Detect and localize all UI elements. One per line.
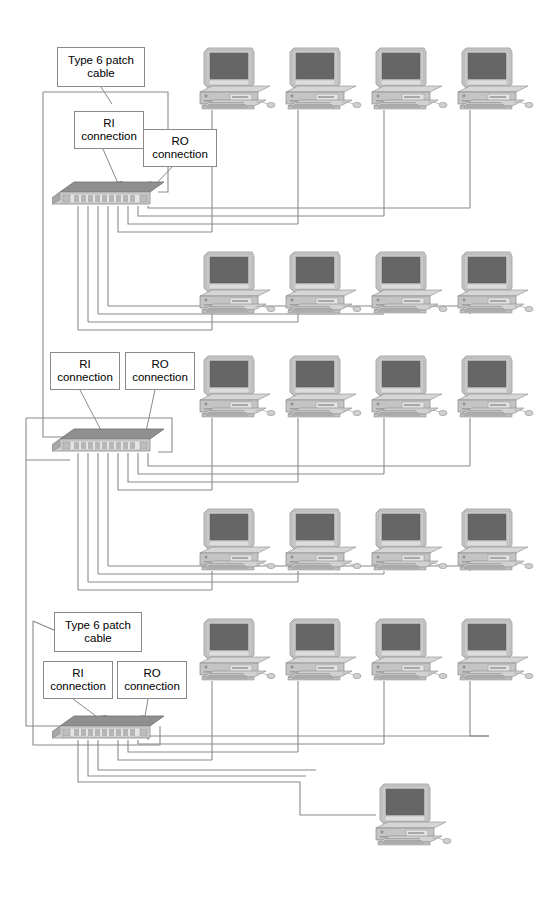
computer-workstation[interactable] xyxy=(282,352,366,420)
computer-workstation[interactable] xyxy=(196,352,280,420)
lobe-mid-7 xyxy=(138,453,384,474)
lobe-bot-5 xyxy=(118,740,212,760)
computer-workstation[interactable] xyxy=(368,615,452,683)
mau-device-middle[interactable] xyxy=(52,425,164,455)
mau-device-top[interactable] xyxy=(52,178,164,208)
computer-workstation[interactable] xyxy=(454,352,538,420)
lobe-top-8 xyxy=(148,206,470,208)
computer-workstation[interactable] xyxy=(282,505,366,573)
computer-workstation[interactable] xyxy=(454,505,538,573)
label-ro-connection-bottom: RO connection xyxy=(117,661,187,699)
computer-workstation[interactable] xyxy=(282,615,366,683)
computer-workstation[interactable] xyxy=(282,44,366,112)
computer-workstation[interactable] xyxy=(372,780,456,848)
label-ro-connection-middle: RO connection xyxy=(125,352,195,390)
label-type6-patch-cable-top: Type 6 patch cable xyxy=(57,47,145,87)
computer-workstation[interactable] xyxy=(196,615,280,683)
computer-workstation[interactable] xyxy=(454,44,538,112)
computer-workstation[interactable] xyxy=(282,248,366,316)
mau-device-bottom[interactable] xyxy=(52,712,164,742)
label-ri-connection-top: RI connection xyxy=(74,111,144,149)
computer-workstation[interactable] xyxy=(368,44,452,112)
lobe-mid-6 xyxy=(128,453,298,482)
computer-workstation[interactable] xyxy=(368,352,452,420)
lobe-top-5 xyxy=(118,206,212,232)
label-type6-patch-cable-bottom: Type 6 patch cable xyxy=(54,612,142,652)
leader-patch-top xyxy=(101,87,112,104)
computer-workstation[interactable] xyxy=(196,505,280,573)
label-ro-connection-top: RO connection xyxy=(143,129,217,167)
lobe-bot-8 xyxy=(148,736,489,740)
lobe-mid-5 xyxy=(118,453,212,490)
computer-workstation[interactable] xyxy=(368,248,452,316)
computer-workstation[interactable] xyxy=(196,248,280,316)
lobe-top-6 xyxy=(128,206,298,224)
computer-workstation[interactable] xyxy=(454,615,538,683)
label-ri-connection-bottom: RI connection xyxy=(43,661,113,699)
computer-workstation[interactable] xyxy=(368,505,452,573)
pc-r5-c4-lobe xyxy=(470,681,489,736)
computer-workstation[interactable] xyxy=(196,44,280,112)
label-ri-connection-middle: RI connection xyxy=(50,352,120,390)
lobe-mid-8 xyxy=(148,453,470,466)
lobe-bot-last xyxy=(78,740,376,815)
lobe-bot-7 xyxy=(138,740,384,744)
computer-workstation[interactable] xyxy=(454,248,538,316)
network-diagram: Type 6 patch cable RI connection RO conn… xyxy=(0,0,555,910)
